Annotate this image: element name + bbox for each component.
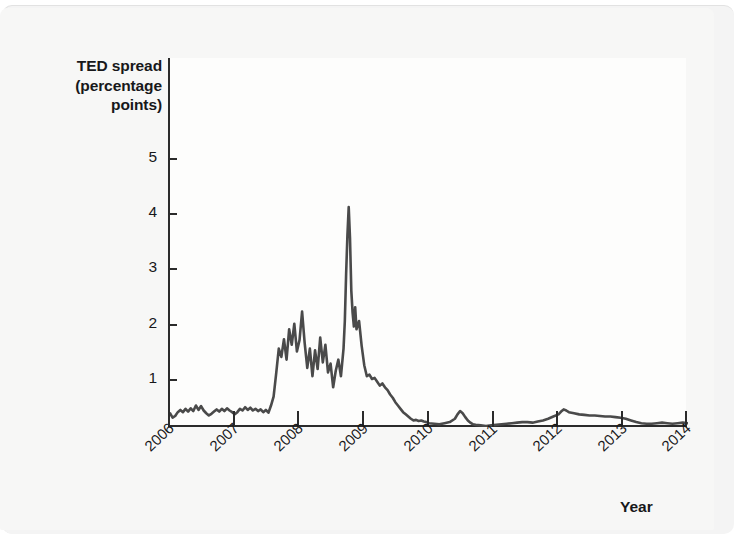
y-axis-title: TED spread (percentage points): [14, 56, 162, 115]
y-tick-label-3: 3: [131, 258, 157, 276]
x-axis-title: Year: [620, 498, 653, 516]
y-axis-title-line-3: points): [14, 95, 162, 115]
y-tick-mark-1: [168, 379, 177, 381]
figure-page: TED spread (percentage points) 5 4 3 2 1: [0, 0, 745, 538]
y-tick-label-2: 2: [131, 314, 157, 332]
ted-spread-line: [170, 207, 688, 426]
y-tick-label-5: 5: [131, 148, 157, 166]
y-tick-mark-5: [168, 158, 177, 160]
y-axis-title-line-1: TED spread: [14, 56, 162, 76]
y-tick-mark-4: [168, 213, 177, 215]
y-tick-label-4: 4: [131, 203, 157, 221]
y-tick-mark-3: [168, 268, 177, 270]
plot-area: [168, 58, 686, 427]
y-tick-mark-2: [168, 324, 177, 326]
ted-spread-chart: TED spread (percentage points) 5 4 3 2 1: [0, 0, 745, 538]
y-axis-title-line-2: (percentage: [14, 76, 162, 96]
data-line-svg: [170, 58, 688, 427]
y-tick-label-1: 1: [131, 369, 157, 387]
